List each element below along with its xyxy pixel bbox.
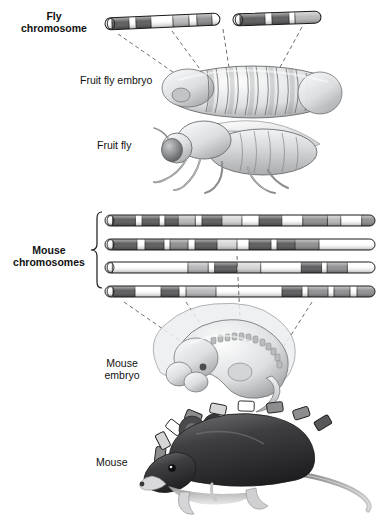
figure-artwork [0, 0, 392, 524]
mouse-back-band-9 [313, 414, 332, 431]
mouse-back-band-7 [266, 401, 283, 413]
fruit-fly-illustration [154, 121, 320, 193]
hox-colinearity-figure: Fly chromosome Fruit fly embryo Fruit fl… [0, 0, 392, 524]
fruit-fly-embryo-illustration [162, 66, 342, 118]
fly-seg-b [233, 11, 322, 26]
mouse-chromosomes-bracket [91, 212, 102, 288]
mouse-chromosomes [105, 215, 375, 297]
mouse-chr-1 [105, 215, 375, 226]
fly-chromosome [105, 11, 322, 30]
fly-seg-a [105, 13, 221, 30]
mouse-chr-3 [105, 262, 375, 273]
mouse-chr-2 [105, 239, 375, 250]
mouse-back-band-5 [209, 403, 227, 416]
mouse-back-band-8 [292, 406, 310, 420]
mouse-back-band-6 [238, 401, 254, 411]
mouse-chr-4 [105, 286, 375, 297]
mouse-embryo-illustration [153, 303, 295, 412]
